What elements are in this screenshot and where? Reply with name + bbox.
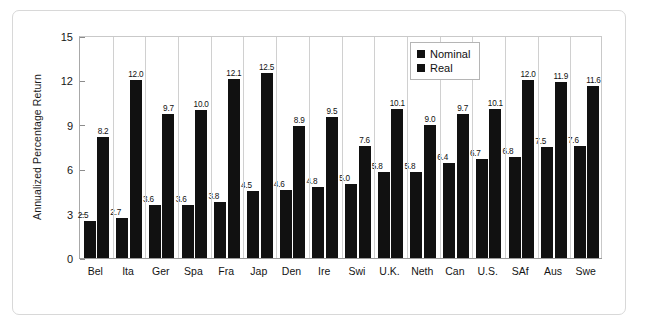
bar-real: 2.5 xyxy=(84,221,96,258)
x-tick-label: Aus xyxy=(544,265,562,277)
bar-group: 4.89.5 xyxy=(309,37,342,258)
bar-group: 5.07.6 xyxy=(342,37,375,258)
bar-group: 6.812.0 xyxy=(505,37,538,258)
category-separator xyxy=(211,37,212,258)
category-separator xyxy=(570,37,571,258)
legend-item-real: Real xyxy=(417,61,470,75)
bar-nominal: 10.0 xyxy=(195,110,207,258)
x-tick-label: U.K. xyxy=(379,265,399,277)
bar-value-label: 12.1 xyxy=(226,69,241,78)
y-tick-label: 15 xyxy=(61,31,80,43)
category-separator xyxy=(276,37,277,258)
legend-label-nominal: Nominal xyxy=(430,47,470,61)
bar-real: 4.8 xyxy=(312,187,324,258)
bar-value-label: 7.6 xyxy=(359,136,370,145)
chart-figure: Annualized Percentage Return 03691215 2.… xyxy=(12,10,626,315)
bar-group: 3.812.1 xyxy=(211,37,244,258)
bar-nominal: 12.0 xyxy=(130,80,142,258)
category-separator xyxy=(407,37,408,258)
x-tick-label: Fra xyxy=(218,265,234,277)
x-tick-label: Jap xyxy=(250,265,267,277)
bar-nominal: 12.5 xyxy=(261,73,273,258)
bar-value-label: 8.2 xyxy=(98,127,109,136)
bar-value-label: 10.0 xyxy=(194,100,209,109)
bar-nominal: 9.7 xyxy=(457,114,469,258)
bar-nominal: 10.1 xyxy=(391,109,403,258)
bar-real: 4.5 xyxy=(247,191,259,258)
x-tick-label: Ita xyxy=(122,265,134,277)
bar-value-label: 11.9 xyxy=(553,72,568,81)
bar-group: 5.810.1 xyxy=(374,37,407,258)
x-tick-label: Den xyxy=(282,265,301,277)
x-tick-label: U.S. xyxy=(477,265,497,277)
category-separator xyxy=(113,37,114,258)
bar-group: 2.58.2 xyxy=(80,37,113,258)
y-tick-label: 0 xyxy=(67,253,80,265)
bar-real: 6.4 xyxy=(443,163,455,258)
bar-real: 5.0 xyxy=(345,184,357,258)
bar-nominal: 9.0 xyxy=(424,125,436,258)
bar-nominal: 7.6 xyxy=(359,146,371,258)
bar-real: 3.6 xyxy=(149,205,161,258)
category-separator xyxy=(309,37,310,258)
bar-real: 4.6 xyxy=(280,190,292,258)
bar-real: 3.6 xyxy=(182,205,194,258)
category-separator xyxy=(505,37,506,258)
bar-value-label: 11.6 xyxy=(586,76,601,85)
bar-value-label: 10.1 xyxy=(488,99,503,108)
bar-real: 7.5 xyxy=(541,147,553,258)
y-tick-label: 12 xyxy=(61,75,80,87)
category-separator xyxy=(374,37,375,258)
bar-group: 2.712.0 xyxy=(113,37,146,258)
bar-real: 7.6 xyxy=(574,146,586,258)
x-tick-label: Swi xyxy=(348,265,365,277)
x-tick-label: Ire xyxy=(318,265,330,277)
bar-real: 2.7 xyxy=(116,218,128,258)
x-tick-label: Bel xyxy=(88,265,103,277)
category-separator xyxy=(145,37,146,258)
bar-value-label: 9.7 xyxy=(163,104,174,113)
category-separator xyxy=(538,37,539,258)
bar-nominal: 9.7 xyxy=(162,114,174,258)
bar-group: 4.512.5 xyxy=(243,37,276,258)
bar-nominal: 8.2 xyxy=(97,137,109,258)
bar-series-container: 2.58.22.712.03.69.73.610.03.812.14.512.5… xyxy=(80,37,601,258)
category-separator xyxy=(342,37,343,258)
bar-real: 5.8 xyxy=(410,172,422,258)
bar-value-label: 12.0 xyxy=(128,70,143,79)
y-tick-label: 9 xyxy=(67,120,80,132)
bar-nominal: 10.1 xyxy=(489,109,501,258)
legend-swatch-nominal-icon xyxy=(417,50,425,58)
bar-nominal: 11.9 xyxy=(555,82,567,258)
x-axis-line xyxy=(79,258,602,259)
bar-value-label: 9.5 xyxy=(327,107,338,116)
bar-real: 6.8 xyxy=(509,157,521,258)
bar-group: 3.69.7 xyxy=(145,37,178,258)
bar-group: 4.68.9 xyxy=(276,37,309,258)
x-tick-label: SAf xyxy=(512,265,529,277)
y-axis-title: Annualized Percentage Return xyxy=(31,47,43,247)
legend-item-nominal: Nominal xyxy=(417,47,470,61)
category-separator xyxy=(243,37,244,258)
bar-real: 5.8 xyxy=(378,172,390,258)
bar-value-label: 9.0 xyxy=(425,115,436,124)
bar-value-label: 12.5 xyxy=(259,63,274,72)
x-tick-label: Can xyxy=(445,265,464,277)
bar-real: 6.7 xyxy=(476,159,488,258)
plot-area: 03691215 2.58.22.712.03.69.73.610.03.812… xyxy=(79,36,602,258)
x-tick-label: Ger xyxy=(152,265,170,277)
x-tick-label: Spa xyxy=(184,265,203,277)
y-tick-label: 6 xyxy=(67,164,80,176)
x-tick-label: Neth xyxy=(411,265,433,277)
bar-group: 7.611.6 xyxy=(570,37,603,258)
x-tick-label: Swe xyxy=(575,265,595,277)
legend-swatch-real-icon xyxy=(417,64,425,72)
bar-nominal: 11.6 xyxy=(587,86,599,258)
bar-value-label: 9.7 xyxy=(457,104,468,113)
bar-group: 3.610.0 xyxy=(178,37,211,258)
bar-group: 7.511.9 xyxy=(538,37,571,258)
bar-nominal: 8.9 xyxy=(293,126,305,258)
category-separator xyxy=(178,37,179,258)
bar-real: 3.8 xyxy=(214,202,226,258)
bar-value-label: 12.0 xyxy=(520,70,535,79)
